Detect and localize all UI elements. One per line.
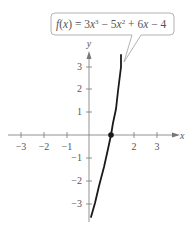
- x-axis: x −3 −2 −1 2 3: [8, 130, 185, 152]
- x-tick-label: −2: [39, 141, 50, 152]
- y-tick-label: −1: [71, 152, 82, 163]
- y-tick-label: −3: [71, 198, 82, 209]
- y-tick-label: 2: [77, 83, 82, 94]
- y-axis-label: y: [86, 38, 92, 49]
- x-tick-label: −1: [62, 141, 73, 152]
- y-tick-label: −2: [71, 175, 82, 186]
- y-axis: y 3 2 1 −1 −2 −3: [71, 38, 92, 222]
- x-axis-arrow-icon: [172, 133, 180, 138]
- function-curve: [91, 55, 121, 217]
- y-tick-label: 3: [77, 61, 82, 72]
- y-tick-label: 1: [77, 106, 82, 117]
- function-callout: f(x) = 3x3 − 5x2 + 6x − 4: [51, 13, 174, 62]
- x-tick-label: 3: [155, 141, 160, 152]
- function-graph: f(x) = 3x3 − 5x2 + 6x − 4 x −3 −2 −1 2 3…: [0, 0, 194, 225]
- function-label: f(x) = 3x3 − 5x2 + 6x − 4: [56, 18, 167, 31]
- root-point: [108, 132, 114, 138]
- x-tick-label: −3: [16, 141, 27, 152]
- x-tick-label: 2: [132, 141, 137, 152]
- x-axis-label: x: [179, 130, 185, 141]
- y-axis-arrow-icon: [87, 51, 92, 59]
